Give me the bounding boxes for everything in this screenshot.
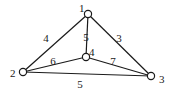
edge-weight-label: 4 <box>43 32 49 44</box>
edge-weight-label: 6 <box>50 55 56 67</box>
edges: 435675 <box>23 14 151 90</box>
node-2 <box>19 68 26 75</box>
node-label: 2 <box>10 67 16 79</box>
node-1 <box>84 10 91 17</box>
node-3 <box>147 72 154 79</box>
edge-weight-label: 5 <box>77 78 83 90</box>
weighted-graph-diagram: 435675 1234 <box>0 0 172 91</box>
edge-2-3 <box>23 72 151 76</box>
node-label: 4 <box>89 46 95 58</box>
node-label: 3 <box>159 73 165 85</box>
edge-weight-label: 7 <box>110 55 116 67</box>
node-label: 1 <box>79 2 85 14</box>
edge-weight-label: 5 <box>83 31 89 43</box>
edge-weight-label: 3 <box>116 32 122 44</box>
